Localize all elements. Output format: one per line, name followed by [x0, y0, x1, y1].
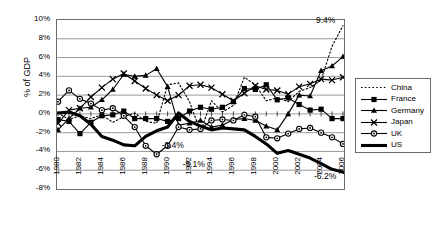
legend-swatch-china-icon — [359, 82, 389, 93]
x-tick-label: 1990 — [163, 157, 171, 191]
legend-swatch-japan-icon — [359, 117, 389, 128]
chart-legend: ChinaFranceGermanyJapanUKUS — [355, 78, 431, 153]
legend-swatch-uk-icon — [359, 128, 389, 139]
legend-label: US — [389, 141, 402, 149]
x-tick-label: 1998 — [250, 157, 258, 191]
legend-item-china[interactable]: China — [359, 82, 428, 94]
legend-item-germany[interactable]: Germany — [359, 105, 428, 117]
x-tick-label: 2006 — [338, 157, 346, 191]
data-label: -5.1% — [183, 160, 205, 169]
legend-swatch-germany-icon — [359, 105, 389, 116]
data-label: -6.2% — [314, 172, 336, 181]
x-tick-label: 2002 — [294, 157, 302, 191]
legend-swatch-us-icon — [359, 140, 389, 151]
x-tick-label: 1980 — [53, 157, 61, 191]
legend-label: Japan — [389, 118, 413, 126]
y-tick-label: 4% — [20, 71, 50, 79]
x-tick-label: 1986 — [119, 157, 127, 191]
y-tick-label: 6% — [20, 53, 50, 61]
legend-label: Germany — [389, 107, 424, 115]
y-tick-label: 10% — [20, 15, 50, 23]
y-tick-label: -8% — [20, 184, 50, 192]
legend-item-uk[interactable]: UK — [359, 128, 428, 140]
legend-label: UK — [389, 130, 402, 138]
chart-container: % of GDP 10%8%6%4%2%0%-2%-4%-6%-8% 19801… — [0, 0, 445, 244]
legend-item-japan[interactable]: Japan — [359, 117, 428, 129]
y-tick-label: -2% — [20, 128, 50, 136]
y-tick-label: -4% — [20, 146, 50, 154]
legend-label: China — [389, 84, 412, 92]
x-tick-label: 1996 — [228, 157, 236, 191]
y-tick-label: 0% — [20, 109, 50, 117]
y-tick-label: 8% — [20, 34, 50, 42]
x-tick-label: 1994 — [206, 157, 214, 191]
legend-item-france[interactable]: France — [359, 94, 428, 106]
data-label: 9.4% — [316, 16, 335, 25]
y-tick-label: 2% — [20, 90, 50, 98]
x-tick-label: 2000 — [272, 157, 280, 191]
x-tick-label: 1982 — [75, 157, 83, 191]
legend-item-us[interactable]: US — [359, 140, 428, 152]
x-tick-label: 1984 — [97, 157, 105, 191]
y-tick-label: -6% — [20, 165, 50, 173]
x-tick-label: 1988 — [141, 157, 149, 191]
legend-swatch-france-icon — [359, 94, 389, 105]
data-label: -3.4% — [162, 141, 184, 150]
legend-label: France — [389, 95, 416, 103]
